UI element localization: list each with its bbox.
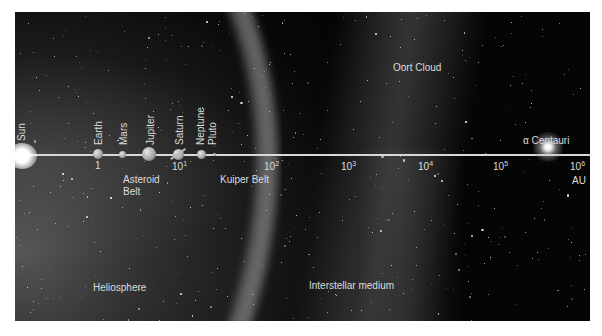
star (436, 106, 437, 107)
star (159, 192, 160, 193)
star (36, 77, 37, 78)
star (408, 96, 409, 97)
star (343, 17, 344, 18)
star (465, 60, 466, 61)
star (584, 289, 585, 290)
inner-glow (15, 52, 265, 272)
star (544, 219, 546, 221)
star (515, 124, 516, 125)
star (284, 245, 287, 248)
star (531, 90, 532, 91)
star (502, 228, 503, 229)
star (54, 56, 55, 57)
star (414, 211, 415, 212)
star (570, 257, 571, 258)
star (90, 151, 91, 152)
star (284, 20, 285, 21)
star (244, 13, 245, 14)
star (386, 83, 387, 84)
star (501, 46, 502, 47)
star (327, 110, 328, 111)
star (228, 110, 229, 111)
star (392, 213, 393, 214)
star (124, 31, 125, 32)
star (33, 52, 34, 53)
star (290, 236, 291, 237)
star (92, 188, 93, 189)
star (375, 185, 376, 186)
star (68, 123, 69, 124)
star (206, 21, 208, 23)
star (58, 97, 59, 98)
star (548, 248, 549, 249)
star (128, 319, 130, 321)
star (320, 139, 321, 140)
star (478, 62, 479, 63)
tick-10-1: 101 (172, 160, 187, 172)
star (368, 227, 369, 228)
star (403, 159, 406, 162)
oort-cloud-band (290, 12, 489, 321)
star (399, 81, 400, 82)
star (229, 33, 230, 34)
star (513, 76, 514, 77)
sun-icon (15, 143, 37, 169)
star (262, 265, 263, 266)
star (286, 298, 287, 299)
star (471, 235, 474, 238)
star (567, 306, 568, 307)
star (522, 83, 523, 84)
star (457, 204, 458, 205)
star (46, 75, 47, 76)
star (417, 18, 418, 19)
star (165, 27, 166, 28)
star (144, 161, 145, 162)
star (270, 94, 271, 95)
star (292, 83, 293, 84)
star (488, 294, 489, 295)
star (187, 256, 188, 257)
star (210, 306, 212, 308)
star (218, 214, 219, 215)
star (87, 196, 89, 198)
alpha-centauri-label: α Centauri (523, 135, 569, 147)
star (159, 320, 160, 321)
star (375, 33, 377, 35)
star (122, 26, 123, 27)
star (53, 298, 54, 299)
star (465, 121, 467, 123)
star (90, 188, 91, 189)
star (509, 107, 510, 108)
star (517, 265, 518, 266)
star (62, 173, 64, 175)
star (542, 36, 543, 37)
star (109, 135, 110, 136)
star (190, 161, 191, 162)
star (516, 304, 517, 305)
oort-cloud-band-lower (355, 152, 465, 321)
star (85, 286, 86, 287)
star (33, 186, 34, 187)
star (355, 196, 356, 197)
star (37, 229, 38, 230)
star (504, 236, 506, 238)
star (20, 53, 21, 54)
star (30, 111, 31, 112)
star (266, 210, 267, 211)
star (280, 194, 282, 196)
star (424, 229, 425, 230)
star (444, 149, 445, 150)
star (231, 88, 232, 89)
star (438, 313, 440, 315)
star (521, 16, 522, 17)
star (86, 216, 88, 218)
star (303, 134, 304, 135)
star (327, 312, 328, 313)
star (180, 105, 182, 107)
star (557, 290, 559, 292)
star (288, 164, 289, 165)
star (309, 217, 310, 218)
star (321, 173, 322, 174)
star (55, 223, 56, 224)
star (414, 39, 415, 40)
